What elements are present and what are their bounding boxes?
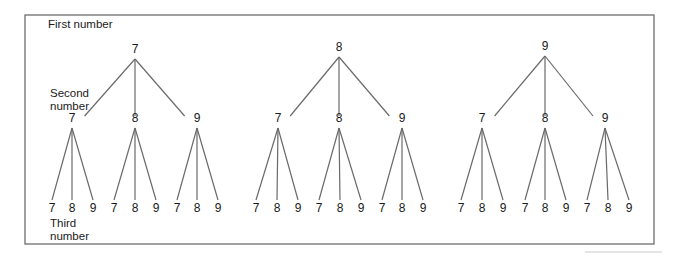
- second-number-node: 9: [399, 111, 406, 125]
- first-level-branch: [495, 56, 545, 116]
- third-number-node: 7: [174, 201, 181, 215]
- third-number-node: 7: [522, 201, 529, 215]
- second-level-branch: [277, 128, 278, 200]
- first-level-branch: [545, 56, 593, 116]
- second-level-branch: [605, 128, 629, 200]
- first-number-label: First number: [48, 18, 113, 30]
- second-level-branch: [605, 128, 608, 200]
- third-number-node: 8: [337, 201, 344, 215]
- second-level-branch: [482, 128, 503, 200]
- second-level-branch: [135, 128, 156, 200]
- third-number-node: 7: [584, 201, 591, 215]
- third-number-node: 7: [253, 201, 260, 215]
- second-number-node: 7: [479, 111, 486, 125]
- third-number-node: 9: [500, 201, 507, 215]
- third-number-node: 9: [626, 201, 633, 215]
- third-number-node: 7: [379, 201, 386, 215]
- third-number-node: 9: [420, 201, 427, 215]
- third-number-label-line1: Third: [50, 217, 76, 229]
- second-level-branch: [382, 128, 402, 200]
- second-level-branch: [339, 128, 361, 200]
- first-level-branch: [339, 57, 389, 116]
- second-number-node: 9: [194, 111, 201, 125]
- first-number-node: 7: [132, 42, 139, 56]
- second-number-node: 8: [336, 111, 343, 125]
- second-level-branch: [461, 128, 482, 200]
- second-level-branch: [52, 128, 72, 200]
- first-number-node: 8: [336, 40, 343, 54]
- third-number-node: 7: [49, 201, 56, 215]
- second-level-branch: [525, 128, 545, 200]
- third-number-node: 7: [316, 201, 323, 215]
- trees-group: 777898789978987789878997899778987899789: [49, 39, 633, 215]
- second-level-branch: [197, 128, 218, 200]
- second-level-branch: [319, 128, 339, 200]
- third-number-node: 9: [295, 201, 302, 215]
- third-number-node: 8: [194, 201, 201, 215]
- third-number-node: 9: [90, 201, 97, 215]
- third-number-node: 8: [69, 201, 76, 215]
- third-number-node: 8: [132, 201, 139, 215]
- second-number-node: 8: [132, 111, 139, 125]
- third-number-node: 8: [274, 201, 281, 215]
- second-level-branch: [256, 128, 278, 200]
- second-level-branch: [587, 128, 605, 200]
- second-level-branch: [402, 128, 423, 200]
- first-number-node: 9: [542, 39, 549, 53]
- third-number-node: 8: [542, 201, 549, 215]
- second-number-node: 7: [69, 111, 76, 125]
- second-level-branch: [114, 128, 135, 200]
- third-number-node: 9: [153, 201, 160, 215]
- first-level-branch: [85, 59, 135, 116]
- second-number-node: 7: [275, 111, 282, 125]
- first-level-branch: [290, 57, 339, 116]
- third-number-node: 8: [605, 201, 612, 215]
- third-number-node: 7: [458, 201, 465, 215]
- second-number-node: 9: [602, 111, 609, 125]
- second-level-branch: [72, 128, 93, 200]
- third-number-node: 9: [563, 201, 570, 215]
- third-number-node: 8: [399, 201, 406, 215]
- third-number-node: 8: [479, 201, 486, 215]
- third-number-node: 9: [358, 201, 365, 215]
- second-number-label-line1: Second: [50, 87, 89, 99]
- second-level-branch: [177, 128, 197, 200]
- third-number-label-line2: number: [50, 230, 89, 242]
- second-number-node: 8: [542, 111, 549, 125]
- third-number-node: 7: [111, 201, 118, 215]
- second-level-branch: [278, 128, 298, 200]
- second-level-branch: [545, 128, 566, 200]
- second-level-branch: [339, 128, 340, 200]
- tree-diagram: First number Second number Third number …: [0, 0, 677, 256]
- first-level-branch: [135, 59, 185, 116]
- third-number-node: 9: [215, 201, 222, 215]
